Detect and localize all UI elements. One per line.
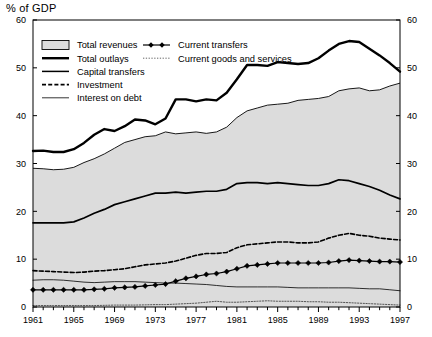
y-tick-labels-left: 0102030405060 — [16, 15, 26, 312]
svg-text:1977: 1977 — [186, 315, 206, 325]
svg-text:Interest on debt: Interest on debt — [77, 93, 142, 103]
chart-legend: Total revenuesTotal outlaysCapital trans… — [42, 40, 292, 103]
svg-text:50: 50 — [16, 63, 26, 73]
chart-svg: 1961196519691973197719811985198919931997… — [0, 0, 432, 337]
svg-text:1965: 1965 — [64, 315, 84, 325]
svg-text:0: 0 — [407, 302, 412, 312]
svg-text:20: 20 — [16, 207, 26, 217]
svg-text:40: 40 — [407, 111, 417, 121]
svg-text:Total outlays: Total outlays — [77, 54, 129, 64]
svg-text:Current transfers: Current transfers — [178, 40, 248, 50]
svg-text:1969: 1969 — [105, 315, 125, 325]
svg-text:0: 0 — [21, 302, 26, 312]
svg-text:30: 30 — [407, 159, 417, 169]
svg-text:Total revenues: Total revenues — [77, 40, 138, 50]
y-tick-labels-right: 0102030405060 — [407, 15, 417, 312]
svg-text:Current goods and services: Current goods and services — [178, 54, 292, 64]
svg-text:30: 30 — [16, 159, 26, 169]
svg-text:1989: 1989 — [308, 315, 328, 325]
plot-area: 1961196519691973197719811985198919931997… — [0, 0, 432, 337]
svg-text:1993: 1993 — [349, 315, 369, 325]
svg-text:60: 60 — [16, 15, 26, 25]
svg-text:1985: 1985 — [268, 315, 288, 325]
svg-text:50: 50 — [407, 63, 417, 73]
svg-text:20: 20 — [407, 207, 417, 217]
svg-text:1973: 1973 — [145, 315, 165, 325]
svg-text:Investment: Investment — [77, 80, 123, 90]
svg-text:1997: 1997 — [390, 315, 410, 325]
x-tick-labels: 1961196519691973197719811985198919931997 — [23, 315, 410, 325]
svg-text:10: 10 — [16, 254, 26, 264]
svg-text:10: 10 — [407, 254, 417, 264]
svg-text:1961: 1961 — [23, 315, 43, 325]
svg-text:1981: 1981 — [227, 315, 247, 325]
svg-text:60: 60 — [407, 15, 417, 25]
chart-root: % of GDP 1961196519691973197719811985198… — [0, 0, 432, 337]
svg-text:Capital transfers: Capital transfers — [77, 67, 145, 77]
svg-text:40: 40 — [16, 111, 26, 121]
